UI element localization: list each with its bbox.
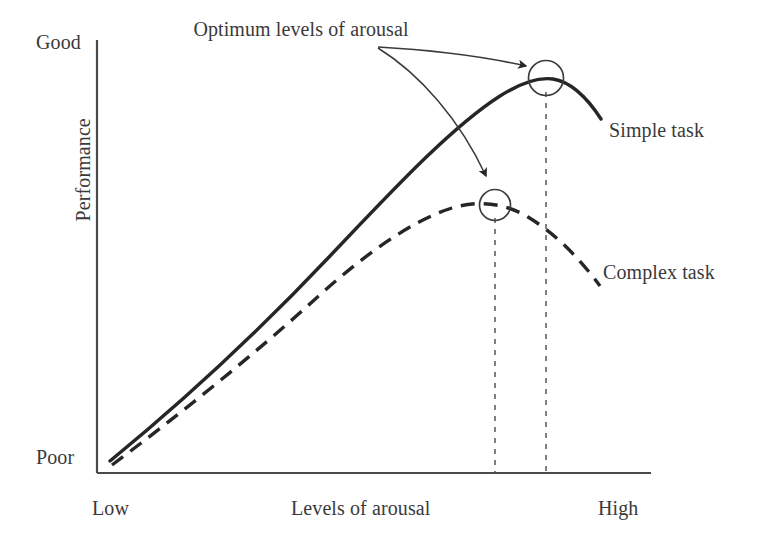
x-axis-right-label: High [598,497,638,521]
complex-task-series-label: Complex task [603,261,715,285]
simple-task-series-label: Simple task [609,119,704,143]
y-axis-title: Performance [72,80,96,260]
x-axis-left-label: Low [92,497,129,521]
arousal-performance-chart: Good Poor Performance Low Levels of arou… [0,0,768,552]
y-axis-top-label: Good [36,31,81,55]
annotation-arrow-to-complex-optimum [378,48,486,176]
optimum-arousal-annotation: Optimum levels of arousal [186,18,416,42]
simple-task-curve [110,79,601,461]
x-axis-title: Levels of arousal [291,497,430,521]
complex-task-curve [112,204,600,465]
y-axis-bottom-label: Poor [36,446,74,470]
